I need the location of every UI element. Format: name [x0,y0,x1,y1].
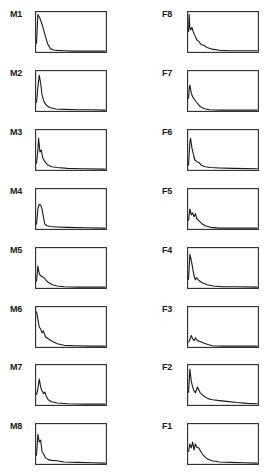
plot-frame [36,306,107,347]
plot-frame [188,129,259,170]
panel-f3: F3 [162,306,270,356]
plot-frame [36,129,107,170]
panel-plot [187,129,259,171]
panel-plot [187,364,259,406]
plot-frame [36,247,107,288]
panel-label: F6 [162,127,172,137]
panel-m6: M6 [10,306,120,356]
panel-label: M7 [10,362,22,372]
panel-f7: F7 [162,70,270,120]
panel-label: F4 [162,245,172,255]
panel-label: F5 [162,186,172,196]
panel-plot [35,188,107,230]
plot-frame [188,365,259,406]
panel-label: M4 [10,186,22,196]
panel-label: F2 [162,362,172,372]
plot-frame [188,12,259,53]
panel-f2: F2 [162,364,270,414]
panel-plot [187,70,259,112]
panel-f5: F5 [162,188,270,238]
plot-frame [188,247,259,288]
panel-plot [35,129,107,171]
panel-label: F7 [162,68,172,78]
panel-plot [187,306,259,348]
panel-m7: M7 [10,364,120,414]
plot-frame [188,70,259,111]
panel-m1: M1 [10,11,120,61]
panel-label: M2 [10,68,22,78]
panel-plot [35,423,107,465]
panel-plot [187,247,259,289]
panel-label: M1 [10,9,22,19]
panel-plot [35,306,107,348]
panel-plot [35,364,107,406]
panel-plot [35,11,107,53]
panel-plot [35,70,107,112]
panel-plot [35,247,107,289]
panel-plot [187,423,259,465]
panel-label: F8 [162,9,172,19]
panel-m8: M8 [10,423,120,473]
panel-m5: M5 [10,247,120,297]
panel-f6: F6 [162,129,270,179]
panel-m2: M2 [10,70,120,120]
panel-label: M8 [10,421,22,431]
panel-f1: F1 [162,423,270,473]
panel-f8: F8 [162,11,270,61]
panel-m3: M3 [10,129,120,179]
panel-f4: F4 [162,247,270,297]
panel-plot [187,188,259,230]
plot-frame [188,424,259,465]
plot-frame [36,12,107,53]
plot-frame [36,188,107,229]
panel-plot [187,11,259,53]
panel-m4: M4 [10,188,120,238]
plot-frame [36,365,107,406]
panel-label: M5 [10,245,22,255]
plot-frame [188,188,259,229]
panel-label: M6 [10,304,22,314]
panel-label: M3 [10,127,22,137]
panel-label: F3 [162,304,172,314]
panel-label: F1 [162,421,172,431]
